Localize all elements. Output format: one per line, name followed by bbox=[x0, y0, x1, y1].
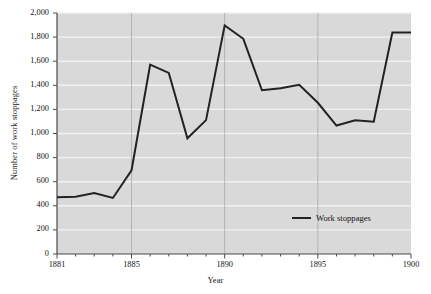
work-stoppages-line-chart: Number of work stoppages Year 0200400600… bbox=[0, 0, 431, 294]
legend-label-work-stoppages: Work stoppages bbox=[316, 213, 371, 223]
y-tick-label: 0 bbox=[0, 249, 49, 258]
x-tick-label: 1885 bbox=[112, 260, 152, 269]
y-tick-label: 1,400 bbox=[0, 80, 49, 89]
y-tick-label: 1,200 bbox=[0, 104, 49, 113]
y-tick-label: 2,000 bbox=[0, 8, 49, 17]
x-tick-label: 1895 bbox=[298, 260, 338, 269]
y-tick-label: 1,800 bbox=[0, 32, 49, 41]
x-tick-label: 1900 bbox=[391, 260, 431, 269]
x-axis-tick-marks bbox=[57, 254, 411, 259]
y-tick-label: 200 bbox=[0, 224, 49, 233]
y-tick-label: 800 bbox=[0, 152, 49, 161]
x-tick-label: 1890 bbox=[205, 260, 245, 269]
y-tick-label: 600 bbox=[0, 176, 49, 185]
y-tick-label: 400 bbox=[0, 200, 49, 209]
x-tick-label: 1881 bbox=[37, 260, 77, 269]
y-tick-label: 1,000 bbox=[0, 128, 49, 137]
y-tick-label: 1,600 bbox=[0, 56, 49, 65]
x-axis-title: Year bbox=[0, 275, 431, 285]
chart-canvas bbox=[0, 0, 431, 294]
